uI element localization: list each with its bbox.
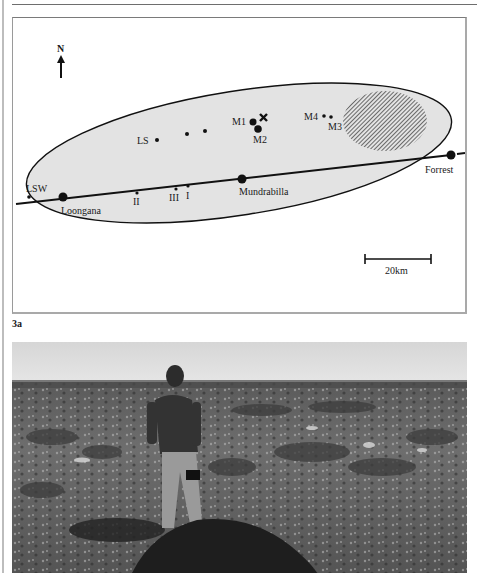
scale-bar: 20km [365, 254, 431, 276]
figure-label: 3a [12, 318, 22, 329]
site-unnamed-2 [203, 129, 207, 133]
north-label: N [57, 43, 65, 54]
scale-bar-label: 20km [385, 265, 408, 276]
page-margin-rule [2, 0, 4, 573]
svg-text:Forrest: Forrest [425, 164, 454, 175]
svg-text:LS: LS [137, 135, 149, 146]
svg-text:Loongana: Loongana [61, 205, 102, 216]
svg-text:M2: M2 [253, 134, 267, 145]
header-rule [12, 4, 477, 5]
svg-text:LSW: LSW [26, 183, 48, 194]
svg-text:III: III [169, 192, 179, 203]
svg-text:M4: M4 [304, 111, 318, 122]
svg-text:II: II [133, 196, 140, 207]
shadow [69, 518, 165, 542]
strewn-field-ellipse [17, 58, 461, 248]
landscape-photo [12, 342, 467, 573]
hatched-area [343, 91, 427, 151]
map-figure: N Loongana Mundrabilla Forrest LSW II II… [12, 17, 467, 314]
north-arrow-icon [57, 55, 65, 78]
svg-text:Mundrabilla: Mundrabilla [239, 186, 289, 197]
site-unnamed-1 [185, 132, 189, 136]
map-canvas: N Loongana Mundrabilla Forrest LSW II II… [13, 18, 465, 312]
svg-text:M1: M1 [232, 116, 246, 127]
svg-text:I: I [186, 190, 189, 201]
town-forrest: Forrest [425, 151, 456, 176]
sky [12, 342, 467, 384]
svg-text:M3: M3 [328, 121, 342, 132]
photo-canvas [12, 342, 467, 573]
